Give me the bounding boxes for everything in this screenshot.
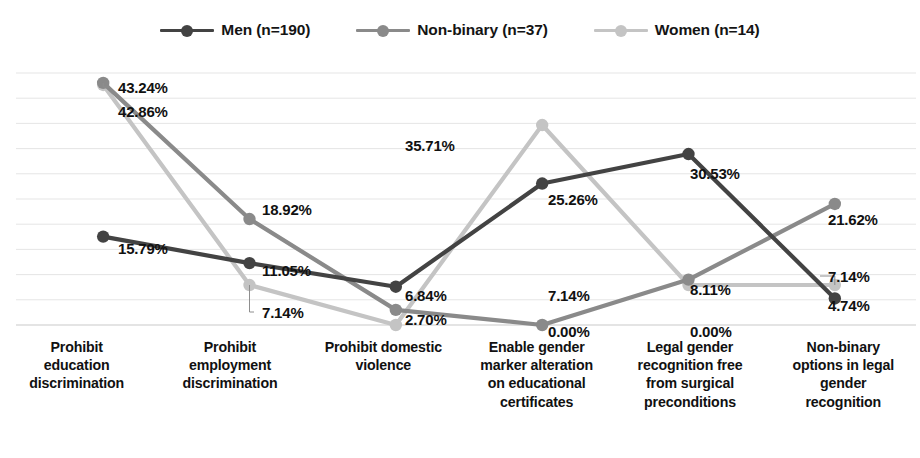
x-axis-label-line: discrimination bbox=[4, 374, 149, 392]
x-axis-label-line: education bbox=[4, 356, 149, 374]
data-label: 15.79% bbox=[118, 241, 168, 256]
legend-item-women[interactable]: Women (n=14) bbox=[594, 21, 760, 39]
legend-label-non-binary: Non-binary (n=37) bbox=[417, 21, 548, 39]
x-axis-label-line: Prohibit domestic bbox=[311, 338, 456, 356]
x-axis-label-line: recognition free bbox=[617, 356, 762, 374]
data-label: 30.53% bbox=[690, 166, 740, 181]
data-label: 6.84% bbox=[405, 288, 447, 303]
x-axis-label-line: gender bbox=[771, 374, 916, 392]
data-point-marker[interactable] bbox=[682, 148, 694, 160]
x-axis-label-5: Non-binaryoptions in legalgenderrecognit… bbox=[767, 338, 920, 448]
data-label: 2.70% bbox=[405, 312, 447, 327]
x-axis-label-4: Legal genderrecognition freefrom surgica… bbox=[613, 338, 766, 448]
x-axis-label-line: certificates bbox=[464, 393, 609, 411]
leader-lines bbox=[103, 83, 835, 312]
data-point-marker[interactable] bbox=[390, 281, 402, 293]
x-axis-label-line: from surgical bbox=[617, 374, 762, 392]
plot-svg bbox=[0, 60, 920, 332]
x-axis-label-line: employment bbox=[157, 356, 302, 374]
data-point-marker[interactable] bbox=[536, 119, 548, 131]
data-label: 25.26% bbox=[548, 192, 598, 207]
x-axis-label-line: discrimination bbox=[157, 374, 302, 392]
legend-item-non-binary[interactable]: Non-binary (n=37) bbox=[356, 21, 548, 39]
x-axis-label-line: Legal gender bbox=[617, 338, 762, 356]
data-point-marker[interactable] bbox=[97, 230, 109, 242]
data-point-marker[interactable] bbox=[243, 257, 255, 269]
x-axis-category-labels: ProhibiteducationdiscriminationProhibite… bbox=[0, 338, 920, 448]
data-label: 7.14% bbox=[828, 269, 870, 284]
data-label: 18.92% bbox=[262, 202, 312, 217]
data-label: 7.14% bbox=[548, 288, 590, 303]
data-point-marker[interactable] bbox=[390, 319, 402, 331]
legend-swatch-women bbox=[594, 23, 648, 37]
data-label: 42.86% bbox=[118, 104, 168, 119]
x-axis-label-1: Prohibitemploymentdiscrimination bbox=[153, 338, 306, 448]
data-point-marker[interactable] bbox=[829, 198, 841, 210]
legend-label-men: Men (n=190) bbox=[221, 21, 310, 39]
x-axis-label-2: Prohibit domesticviolence bbox=[307, 338, 460, 448]
data-label: 8.11% bbox=[690, 282, 731, 297]
x-axis-label-line: on educational bbox=[464, 374, 609, 392]
x-axis-label-line: options in legal bbox=[771, 356, 916, 374]
data-label: 4.74% bbox=[828, 298, 870, 313]
x-axis-label-line: marker alteration bbox=[464, 356, 609, 374]
x-axis-label-line: Prohibit bbox=[4, 338, 149, 356]
x-axis-label-line: Non-binary bbox=[771, 338, 916, 356]
data-label: 0.00% bbox=[690, 324, 732, 339]
data-label: 35.71% bbox=[405, 138, 455, 153]
legend-label-women: Women (n=14) bbox=[655, 21, 760, 39]
legend-item-men[interactable]: Men (n=190) bbox=[160, 21, 310, 39]
x-axis-label-line: violence bbox=[311, 356, 456, 374]
data-label: 7.14% bbox=[262, 305, 304, 320]
data-point-marker[interactable] bbox=[390, 304, 402, 316]
data-label: 0.00% bbox=[548, 324, 590, 339]
data-point-marker[interactable] bbox=[243, 213, 255, 225]
plot-area: 43.24%42.86%15.79%18.92%11.05%7.14%35.71… bbox=[0, 60, 920, 332]
data-label: 43.24% bbox=[118, 80, 168, 95]
x-axis-label-line: preconditions bbox=[617, 393, 762, 411]
data-label: 21.62% bbox=[828, 212, 878, 227]
legend-swatch-men bbox=[160, 23, 214, 37]
x-axis-label-3: Enable gendermarker alterationon educati… bbox=[460, 338, 613, 448]
legend-swatch-non-binary bbox=[356, 23, 410, 37]
data-point-marker[interactable] bbox=[536, 177, 548, 189]
x-axis-label-line: Enable gender bbox=[464, 338, 609, 356]
x-axis-label-line: Prohibit bbox=[157, 338, 302, 356]
x-axis-label-line: recognition bbox=[771, 393, 916, 411]
chart-legend: Men (n=190) Non-binary (n=37) Women (n=1… bbox=[0, 14, 920, 46]
x-axis-label-0: Prohibiteducationdiscrimination bbox=[0, 338, 153, 448]
data-point-marker[interactable] bbox=[536, 319, 548, 331]
data-label: 11.05% bbox=[262, 263, 311, 278]
line-chart: Men (n=190) Non-binary (n=37) Women (n=1… bbox=[0, 0, 920, 458]
